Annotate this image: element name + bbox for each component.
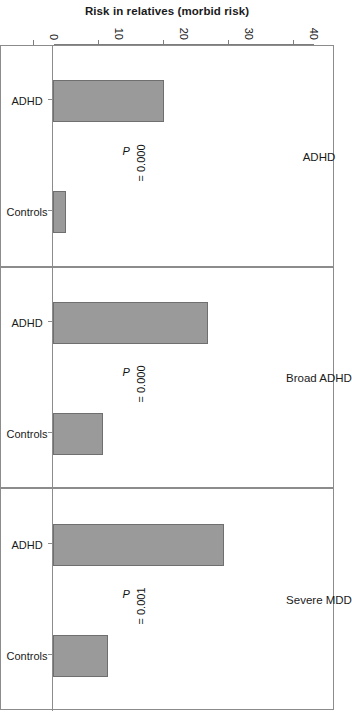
y-tick-label: 20 [178, 28, 190, 40]
category-label-adhd: ADHD [21, 529, 33, 560]
category-label-text: ADHD [11, 539, 42, 551]
category-axis-line [52, 268, 53, 490]
panel-severe-mdd: Severe MDDADHDControlsP = 0.001 [0, 488, 334, 710]
p-symbol: P [122, 588, 129, 600]
category-label-adhd: ADHD [21, 86, 33, 117]
p-value-number: = 0.001 [135, 588, 147, 625]
p-symbol: P [122, 145, 129, 157]
category-label-text: ADHD [11, 95, 42, 107]
p-value-annotation: P = 0.001 [129, 582, 153, 619]
panel-broad-adhd: Broad ADHDADHDControlsP = 0.000 [0, 267, 334, 489]
category-label-controls: Controls [21, 413, 33, 454]
p-value-annotation: P = 0.000 [129, 138, 153, 175]
bar-controls [53, 191, 66, 233]
panel-adhd: ADHDADHDControlsP = 0.000 [0, 45, 334, 267]
y-tick-label: 10 [113, 28, 125, 40]
bar-controls [53, 635, 108, 677]
y-tick-label: 30 [243, 28, 255, 40]
category-axis-line [52, 489, 53, 711]
bar-controls [53, 413, 103, 455]
bar-adhd [53, 524, 224, 566]
category-label-adhd: ADHD [21, 307, 33, 338]
p-value-number: = 0.000 [135, 144, 147, 181]
category-label-controls: Controls [21, 192, 33, 233]
p-value-number: = 0.000 [135, 366, 147, 403]
p-value-text: P = 0.001 [122, 588, 159, 612]
y-axis-tick-labels: 010203040 [0, 20, 334, 42]
bar-adhd [53, 302, 208, 344]
p-value-text: P = 0.000 [122, 366, 159, 390]
y-tick-label: 0 [48, 34, 60, 40]
panel-plot-area: ADHDControlsP = 0.001 [1, 489, 333, 709]
category-label-text: Controls [7, 206, 48, 218]
panel-plot-area: ADHDControlsP = 0.000 [1, 46, 333, 266]
bar-adhd [53, 80, 164, 122]
category-label-text: Controls [7, 650, 48, 662]
y-axis-title: Risk in relatives (morbid risk) [0, 2, 334, 20]
p-value-text: P = 0.000 [122, 145, 159, 169]
category-label-text: ADHD [11, 317, 42, 329]
panel-plot-area: ADHDControlsP = 0.000 [1, 268, 333, 488]
category-label-controls: Controls [21, 635, 33, 676]
y-tick-label: 40 [308, 28, 320, 40]
p-value-annotation: P = 0.000 [129, 360, 153, 397]
p-symbol: P [122, 366, 129, 378]
category-axis-line [52, 46, 53, 268]
panels-container: ADHDADHDControlsP = 0.000Broad ADHDADHDC… [0, 45, 334, 728]
category-label-text: Controls [7, 428, 48, 440]
